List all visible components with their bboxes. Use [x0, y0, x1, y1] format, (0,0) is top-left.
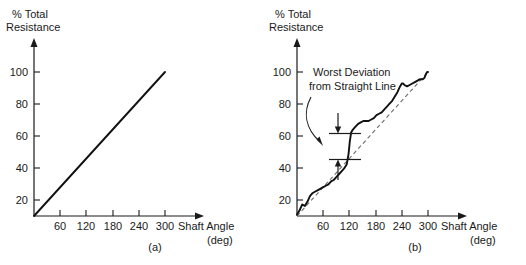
x-tick-label-300: 300 — [156, 220, 174, 232]
deviation-lower-arrowhead — [335, 160, 341, 167]
x-tick-label-300-b: 300 — [419, 220, 437, 232]
chart-panel-b: % Total Resistance 100 80 60 40 20 — [263, 0, 526, 265]
x-tick-label-180: 180 — [104, 220, 122, 232]
y-tick-label-100-b: 100 — [273, 66, 291, 78]
x-axis-title-line1-b: Shaft Angle — [441, 220, 497, 232]
x-tick-label-240: 240 — [130, 220, 148, 232]
annotation-label-line2: from Straight Line — [309, 80, 396, 92]
y-tick-label-60: 60 — [16, 130, 28, 142]
series-ideal-straight-line-b — [297, 72, 428, 216]
y-tick-label-80-b: 80 — [279, 98, 291, 110]
x-tick-label-120: 120 — [77, 220, 95, 232]
x-tick-label-60-b: 60 — [317, 220, 329, 232]
x-tick-label-180-b: 180 — [367, 220, 385, 232]
y-axis-arrowhead-b — [294, 38, 301, 47]
series-actual-resistance-b — [297, 72, 428, 215]
y-tick-label-20-b: 20 — [279, 194, 291, 206]
y-axis-title-line2: Resistance — [6, 21, 60, 33]
y-tick-label-20: 20 — [16, 194, 28, 206]
y-axis-arrowhead — [31, 38, 38, 47]
x-axis-title-line1: Shaft Angle — [178, 220, 234, 232]
x-tick-label-120-b: 120 — [340, 220, 358, 232]
resistance-linearity-figure: % Total Resistance 100 80 60 40 20 — [0, 0, 526, 265]
x-axis-title-line2-b: (deg) — [470, 234, 496, 246]
plot-b-svg: % Total Resistance 100 80 60 40 20 — [263, 0, 526, 265]
y-tick-label-40: 40 — [16, 162, 28, 174]
annotation-leader-arrowhead — [317, 137, 324, 147]
x-tick-label-60: 60 — [54, 220, 66, 232]
panel-caption-a: (a) — [148, 241, 161, 253]
annotation-leader-curve — [306, 97, 320, 142]
x-axis-arrowhead-b — [458, 213, 467, 220]
x-axis-title-line2: (deg) — [207, 234, 233, 246]
chart-panel-a: % Total Resistance 100 80 60 40 20 — [0, 0, 263, 265]
y-axis-title-line1-b: % Total — [275, 8, 311, 20]
y-tick-label-80: 80 — [16, 98, 28, 110]
x-tick-label-240-b: 240 — [393, 220, 411, 232]
y-tick-label-40-b: 40 — [279, 162, 291, 174]
plot-a-svg: % Total Resistance 100 80 60 40 20 — [0, 0, 263, 265]
series-ideal-linear-a — [34, 72, 165, 216]
panel-caption-b: (b) — [408, 241, 421, 253]
y-axis-title-line1: % Total — [12, 8, 48, 20]
y-tick-label-60-b: 60 — [279, 130, 291, 142]
deviation-upper-arrowhead — [335, 127, 341, 134]
y-axis-title-line2-b: Resistance — [269, 21, 323, 33]
y-tick-label-100: 100 — [10, 66, 28, 78]
x-axis-arrowhead — [195, 213, 204, 220]
annotation-label-line1: Worst Deviation — [313, 66, 390, 78]
